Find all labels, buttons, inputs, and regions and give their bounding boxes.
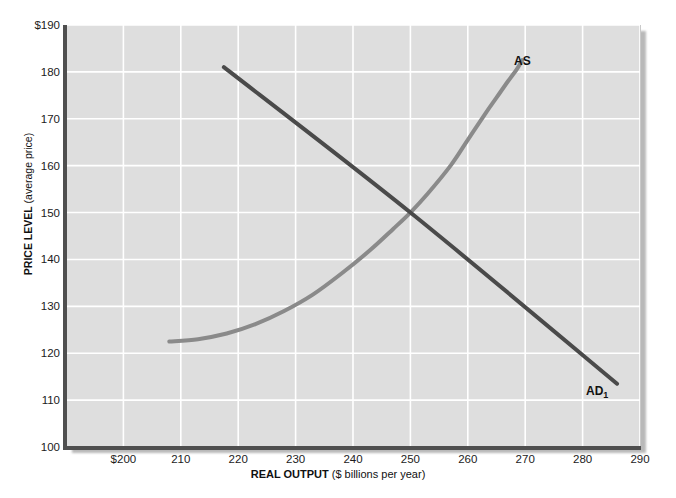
y-tick-label: 180 [4, 66, 60, 78]
y-tick-label: 120 [4, 347, 60, 359]
chart-figure: $190180170160150140130120110100 PRICE LE… [0, 0, 676, 498]
ad-curve-label-text: AD [586, 384, 603, 398]
x-tick-label: 240 [343, 453, 362, 465]
y-tick-label: 110 [4, 394, 60, 406]
x-tick-label: $200 [111, 453, 137, 465]
x-tick-label: 230 [286, 453, 305, 465]
y-tick-label: 100 [4, 441, 60, 453]
curves-layer [66, 25, 640, 447]
x-axis-title-strong: REAL OUTPUT [251, 468, 329, 480]
x-tick-label: 280 [573, 453, 592, 465]
ad-curve-label: AD1 [586, 384, 608, 398]
y-axis-title-rest: (average price) [22, 133, 34, 207]
x-axis-title: REAL OUTPUT ($ billions per year) [0, 468, 676, 480]
as-curve-label-text: AS [514, 54, 531, 68]
x-tick-label: 260 [458, 453, 477, 465]
y-tick-label: 130 [4, 300, 60, 312]
ad-curve-label-subscript: 1 [603, 390, 608, 400]
x-tick-label: 250 [401, 453, 420, 465]
plot-area [66, 25, 641, 448]
y-axis-title-strong: PRICE LEVEL [22, 206, 34, 275]
x-axis-title-rest: ($ billions per year) [329, 468, 426, 480]
x-tick-label: 210 [171, 453, 190, 465]
as-curve-label: AS [514, 54, 531, 68]
y-axis-spine [63, 25, 67, 450]
x-tick-label: 270 [516, 453, 535, 465]
x-tick-label: 220 [229, 453, 248, 465]
x-tick-label: 290 [630, 453, 649, 465]
y-axis-title: PRICE LEVEL (average price) [22, 114, 34, 294]
x-axis-spine [63, 446, 641, 450]
y-tick-label: $190 [4, 19, 60, 31]
